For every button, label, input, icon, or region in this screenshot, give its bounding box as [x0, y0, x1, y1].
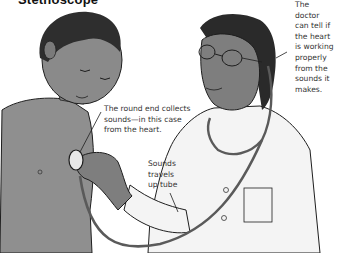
label-line: the heart — [295, 32, 338, 43]
chest-piece — [69, 150, 83, 170]
label-line: properly — [295, 53, 338, 64]
label-round-end: The round end collects sounds—in this ca… — [104, 104, 204, 136]
label-line: The — [295, 0, 338, 11]
label-line: can tell if — [295, 21, 338, 32]
label-line: travels — [148, 170, 188, 181]
label-line: sounds it — [295, 74, 338, 85]
label-line: The round end collects — [104, 104, 204, 115]
label-line: up tube — [148, 180, 188, 191]
label-line: doctor — [295, 11, 338, 22]
label-line: makes. — [295, 85, 338, 96]
label-line: is working — [295, 42, 338, 53]
label-line: from the — [295, 64, 338, 75]
label-line: Sounds — [148, 159, 188, 170]
label-line: from the heart. — [104, 125, 204, 136]
label-line: sounds—in this case — [104, 115, 204, 126]
label-sounds-travel: Sounds travels up tube — [148, 159, 188, 191]
label-doctor-can-tell: The doctor can tell if the heart is work… — [295, 0, 338, 95]
